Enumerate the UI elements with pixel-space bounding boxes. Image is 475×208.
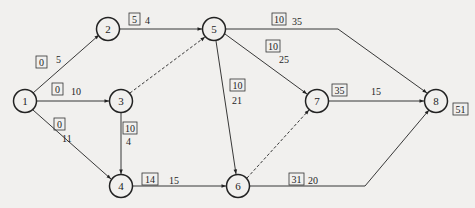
node-5-label: 5 <box>211 23 217 35</box>
edge-5-8-box: 10 <box>274 14 284 25</box>
node-3-label: 3 <box>118 95 124 107</box>
edge-1-3-box: 0 <box>55 84 60 95</box>
network-diagram: 1 2 3 4 5 6 7 8 0 0 0 5 10 14 10 10 10 3… <box>0 0 475 208</box>
edge-7-8-box: 35 <box>335 85 345 96</box>
edge-1-2-duration: 5 <box>56 54 61 65</box>
edge-1-4-duration: 11 <box>62 133 72 144</box>
node-7-label: 7 <box>314 95 320 107</box>
edge-1-4-box: 0 <box>57 119 62 130</box>
edge-5-8-duration: 35 <box>292 16 302 27</box>
edge-3-4-box: 10 <box>125 123 135 134</box>
edge-5-6-duration: 21 <box>232 95 242 106</box>
edge-2-5-box: 5 <box>132 14 137 25</box>
node-8-box: 51 <box>456 104 466 115</box>
node-8-label: 8 <box>433 95 439 107</box>
edge-1-3-duration: 10 <box>71 86 81 97</box>
edge-4-6-duration: 15 <box>169 175 179 186</box>
edge-5-7-box: 10 <box>268 41 278 52</box>
edge-6-7-dummy <box>247 110 309 178</box>
edge-5-7-duration: 25 <box>279 54 289 65</box>
edge-4-6-box: 14 <box>145 174 155 185</box>
edge-3-5-dummy <box>130 37 205 93</box>
edge-6-8-box: 31 <box>292 174 302 185</box>
edge-6-8 <box>250 110 429 186</box>
edge-5-6-box: 10 <box>233 80 243 91</box>
node-2-label: 2 <box>105 23 111 35</box>
edge-5-8 <box>226 29 427 93</box>
edge-1-4 <box>33 110 111 179</box>
edge-3-4-duration: 4 <box>126 136 131 147</box>
edge-7-8-duration: 15 <box>371 86 381 97</box>
edge-5-6 <box>216 41 236 174</box>
node-6-label: 6 <box>235 180 241 192</box>
edge-2-5-duration: 4 <box>145 15 150 26</box>
edge-6-8-duration: 20 <box>308 175 318 186</box>
node-4-label: 4 <box>118 180 124 192</box>
node-1-label: 1 <box>22 95 28 107</box>
edge-1-2-box: 0 <box>39 57 44 68</box>
